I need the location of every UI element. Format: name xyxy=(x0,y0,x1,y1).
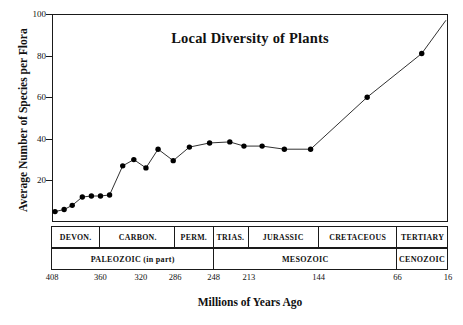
geo-cell-trias: TRIAS. xyxy=(213,226,249,248)
figure: Local Diversity of Plants Average Number… xyxy=(0,0,463,325)
geo-cell-mesozoic: MESOZOIC xyxy=(213,248,398,270)
y-tick-label-60: 60 xyxy=(0,92,46,102)
geologic-eras-row: PALEOZOIC (in part)MESOZOICCENOZOIC xyxy=(52,248,448,270)
x-tick-label-66: 66 xyxy=(393,272,402,282)
x-tick-label-408: 408 xyxy=(46,272,59,282)
geo-cell-label: PALEOZOIC (in part) xyxy=(90,255,174,264)
geo-cell-label: CRETACEOUS xyxy=(329,233,386,242)
geo-cell-jurassic: JURASSIC xyxy=(248,226,319,248)
geologic-time-scale: DEVON.CARBON.PERM.TRIAS.JURASSICCRETACEO… xyxy=(52,226,448,270)
y-tick-label-80: 80 xyxy=(0,51,46,61)
geo-cell-cenozoic: CENOZOIC xyxy=(396,248,448,270)
y-tick-mark-80 xyxy=(46,56,52,57)
x-tick-label-213: 213 xyxy=(243,272,256,282)
geo-cell-carbon: CARBON. xyxy=(99,226,175,248)
geo-cell-label: JURASSIC xyxy=(263,233,304,242)
page-title: Local Diversity of Plants xyxy=(52,30,448,47)
x-tick-label-16: 16 xyxy=(444,272,453,282)
geo-cell-tertiary: TERTIARY xyxy=(396,226,448,248)
geo-cell-label: TERTIARY xyxy=(401,233,444,242)
x-tick-label-286: 286 xyxy=(169,272,182,282)
y-tick-mark-60 xyxy=(46,97,52,98)
geologic-periods-row: DEVON.CARBON.PERM.TRIAS.JURASSICCRETACEO… xyxy=(52,226,448,248)
geo-cell-label: DEVON. xyxy=(60,233,92,242)
x-tick-label-248: 248 xyxy=(207,272,220,282)
y-tick-mark-100 xyxy=(46,14,52,15)
geo-cell-paleozoic-in-part: PALEOZOIC (in part) xyxy=(51,248,214,270)
geo-cell-label: CENOZOIC xyxy=(399,255,445,264)
x-tick-label-144: 144 xyxy=(312,272,325,282)
x-tick-label-360: 360 xyxy=(94,272,107,282)
y-tick-label-20: 20 xyxy=(0,175,46,185)
geo-cell-label: MESOZOIC xyxy=(282,255,329,264)
x-tick-label-320: 320 xyxy=(135,272,148,282)
y-tick-mark-40 xyxy=(46,139,52,140)
geo-cell-cretaceous: CRETACEOUS xyxy=(318,226,398,248)
y-tick-label-100: 100 xyxy=(0,9,46,19)
geo-cell-label: TRIAS. xyxy=(217,233,245,242)
geo-cell-label: CARBON. xyxy=(118,233,156,242)
geo-cell-label: PERM. xyxy=(181,233,208,242)
geo-cell-devon: DEVON. xyxy=(51,226,100,248)
x-axis-label: Millions of Years Ago xyxy=(52,296,448,308)
geo-cell-perm: PERM. xyxy=(174,226,213,248)
y-tick-label-40: 40 xyxy=(0,134,46,144)
y-tick-mark-20 xyxy=(46,180,52,181)
